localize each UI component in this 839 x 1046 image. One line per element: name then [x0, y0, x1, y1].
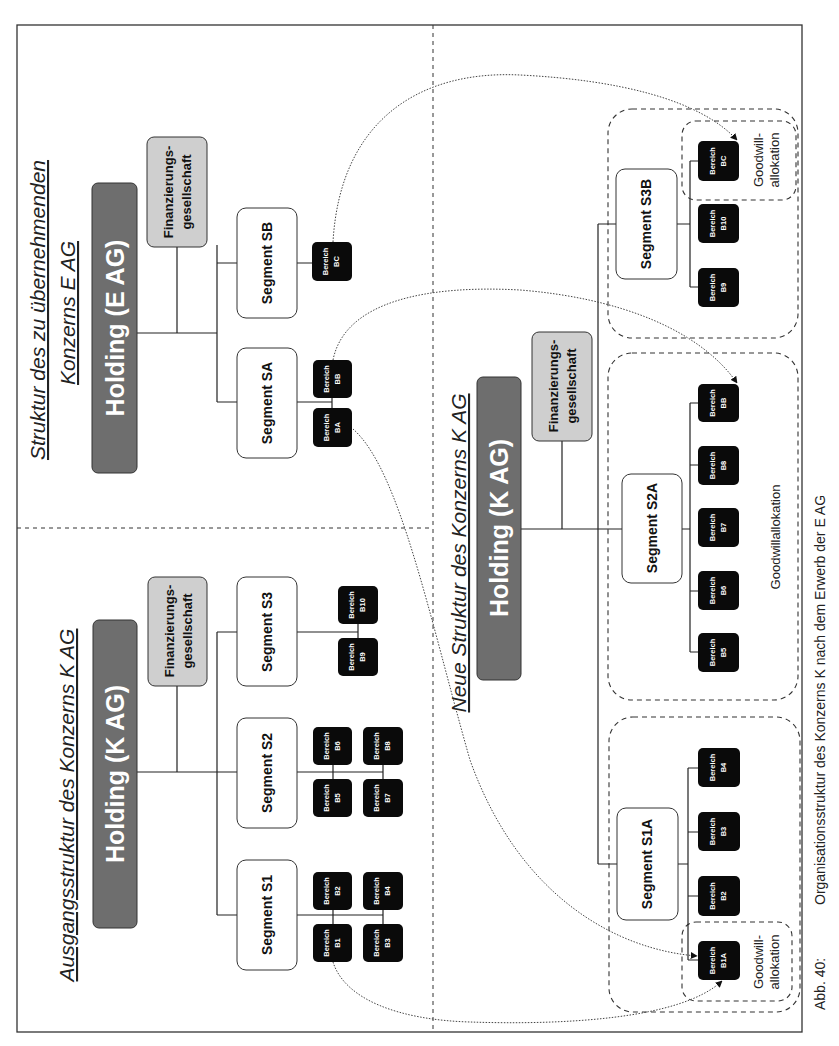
svg-text:B7: B7	[383, 793, 392, 803]
area-box: Bereich B9	[698, 268, 739, 307]
svg-text:BC: BC	[332, 256, 341, 267]
finance-company-label-2: gesellschaft	[564, 348, 579, 424]
svg-text:Bereich: Bereich	[708, 209, 717, 237]
panel-title-line2: Konzerns E AG	[56, 241, 79, 385]
svg-text:B6: B6	[719, 586, 728, 596]
area-box: Bereich B6	[698, 571, 739, 610]
area-box: Bereich B5	[698, 633, 739, 672]
svg-text:Bereich: Bereich	[708, 638, 717, 666]
area-box: Bereich B3	[698, 812, 740, 851]
svg-text:B9: B9	[719, 283, 728, 293]
svg-text:Bereich: Bereich	[372, 784, 381, 812]
area-box: Bereich B8	[363, 727, 403, 765]
svg-text:B6: B6	[333, 741, 342, 751]
svg-text:B4: B4	[383, 885, 392, 895]
svg-text:Bereich: Bereich	[708, 946, 717, 974]
area-box: Bereich B4	[363, 872, 403, 910]
svg-text:Bereich: Bereich	[372, 732, 381, 760]
svg-text:B5: B5	[719, 648, 728, 658]
svg-text:B10: B10	[719, 217, 728, 231]
area-box: Bereich B1A	[698, 941, 740, 980]
area-box: Bereich BC	[312, 242, 352, 281]
svg-text:B3: B3	[383, 938, 392, 948]
area-box: Bereich B7	[363, 779, 403, 817]
segment-label: Segment S2	[259, 733, 275, 813]
holding-label: Holding (K AG)	[485, 439, 513, 617]
segment-label: Segment S2A	[644, 483, 660, 573]
goodwill-label: Goodwill-	[751, 133, 766, 187]
svg-text:Bereich: Bereich	[322, 413, 331, 441]
holding-label: Holding (K AG)	[101, 685, 129, 863]
svg-text:Bereich: Bereich	[372, 929, 381, 957]
area-box: Bereich B4	[698, 748, 740, 787]
svg-text:Bereich: Bereich	[708, 753, 717, 781]
segment-label: Segment S3	[259, 592, 275, 672]
svg-text:BA: BA	[333, 422, 342, 433]
svg-text:B10: B10	[358, 598, 367, 612]
svg-text:B2: B2	[333, 886, 342, 896]
svg-text:B7: B7	[719, 523, 728, 533]
panel-target-e-ag: Struktur des zu übernehmenden Konzerns E…	[26, 137, 352, 473]
area-box: Bereich B7	[698, 508, 739, 547]
svg-text:B4: B4	[719, 762, 728, 772]
segment-label: Segment S1	[259, 875, 275, 955]
goodwill-label: allokation	[767, 133, 782, 188]
svg-text:Bereich: Bereich	[708, 513, 717, 541]
panel-title: Ausgangsstruktur des Konzerns K AG	[55, 629, 78, 984]
svg-text:Bereich: Bereich	[708, 817, 717, 845]
finance-company-label-2: gesellschaft	[180, 593, 195, 669]
caption-text: Organisationsstruktur des Konzerns K nac…	[812, 495, 828, 905]
finance-company-box	[532, 332, 592, 441]
panel-original-k-ag: Ausgangsstruktur des Konzerns K AG Holdi…	[55, 577, 403, 983]
svg-text:BB: BB	[333, 373, 342, 384]
area-box: Bereich B1	[313, 924, 352, 962]
finance-company-label: Finanzierungs-	[546, 340, 561, 432]
svg-text:B1: B1	[333, 938, 342, 948]
svg-text:B3: B3	[719, 827, 728, 837]
area-box: Bereich B10	[338, 586, 378, 624]
svg-text:Bereich: Bereich	[322, 784, 331, 812]
segment-label: Segment S3B	[638, 179, 654, 269]
area-box: Bereich B10	[698, 204, 739, 243]
area-box: Bereich B5	[313, 779, 352, 817]
area-box: Bereich BB	[698, 384, 739, 422]
finance-company-label: Finanzierungs-	[162, 585, 177, 677]
svg-text:Bereich: Bereich	[372, 877, 381, 905]
finance-company-box	[148, 577, 207, 686]
svg-text:Bereich: Bereich	[322, 929, 331, 957]
transfer-arrow-b1	[333, 962, 722, 1023]
segment-label: Segment SB	[259, 222, 275, 304]
svg-text:Bereich: Bereich	[708, 451, 717, 479]
svg-text:Bereich: Bereich	[708, 389, 717, 417]
svg-text:Bereich: Bereich	[708, 147, 717, 175]
svg-text:Bereich: Bereich	[708, 882, 717, 910]
svg-text:B9: B9	[358, 652, 367, 662]
holding-label: Holding (E AG)	[101, 240, 129, 417]
svg-text:Bereich: Bereich	[322, 877, 331, 905]
svg-text:BC: BC	[719, 155, 728, 166]
area-box: Bereich BA	[313, 408, 352, 447]
area-box: Bereich B2	[313, 872, 352, 910]
area-box: Bereich BC	[698, 141, 739, 181]
panel-new-k-ag: Neue Struktur des Konzerns K AG Holding …	[447, 109, 800, 1012]
svg-text:Bereich: Bereich	[347, 643, 356, 671]
finance-company-label-2: gesellschaft	[179, 154, 194, 230]
svg-text:B1A: B1A	[719, 952, 728, 968]
area-box: Bereich B9	[338, 638, 378, 676]
segment-label: Segment S1A	[639, 819, 655, 909]
caption-label: Abb. 40:	[812, 958, 828, 1010]
area-box: Bereich B3	[363, 924, 403, 962]
area-box: Bereich B2	[698, 876, 740, 916]
goodwill-label: allokation	[767, 935, 782, 990]
area-box: Bereich B6	[313, 727, 352, 765]
svg-text:Bereich: Bereich	[322, 732, 331, 760]
svg-text:Bereich: Bereich	[708, 273, 717, 301]
svg-text:B8: B8	[383, 741, 392, 751]
svg-text:Bereich: Bereich	[321, 247, 330, 275]
goodwill-label: Goodwillallokation	[768, 485, 783, 590]
svg-text:Bereich: Bereich	[322, 365, 331, 393]
org-structure-figure: Struktur des zu übernehmenden Konzerns E…	[0, 0, 839, 1046]
svg-text:B2: B2	[719, 891, 728, 901]
area-box: Bereich B8	[698, 446, 739, 485]
goodwill-label: Goodwill-	[751, 935, 766, 989]
